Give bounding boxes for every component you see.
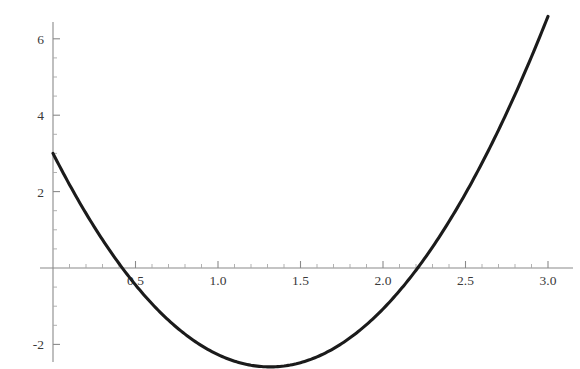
x-tick-label: 1.5 [292, 273, 309, 288]
y-axis-major-ticks [53, 39, 60, 345]
x-axis-major-ticks [136, 261, 549, 268]
chart-svg: 0.51.01.52.02.53.0 -2246 [0, 0, 580, 369]
y-tick-label: -2 [33, 337, 44, 352]
quadratic-curve [53, 16, 548, 367]
x-tick-label: 2.5 [457, 273, 474, 288]
x-tick-label: 3.0 [540, 273, 557, 288]
x-axis-tick-labels: 0.51.01.52.02.53.0 [127, 273, 557, 288]
y-tick-label: 2 [37, 185, 44, 200]
axes-group [40, 22, 573, 362]
y-tick-label: 6 [37, 32, 44, 47]
x-tick-label: 2.0 [375, 273, 392, 288]
plot-canvas: 0.51.01.52.02.53.0 -2246 [0, 0, 580, 369]
y-axis-tick-labels: -2246 [33, 32, 45, 353]
x-tick-label: 1.0 [210, 273, 227, 288]
y-tick-label: 4 [37, 108, 44, 123]
